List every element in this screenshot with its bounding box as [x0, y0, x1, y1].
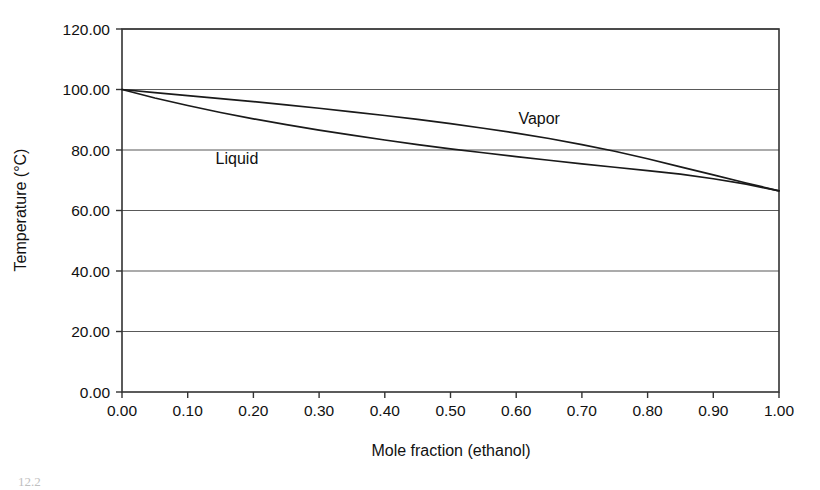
y-tick-label: 20.00: [71, 323, 110, 340]
vle-phase-diagram-figure: 0.000.100.200.300.400.500.600.700.800.90…: [0, 0, 820, 490]
page-caption-strip: 12.2: [0, 476, 820, 490]
x-axis-tick-labels: 0.000.100.200.300.400.500.600.700.800.90…: [107, 402, 795, 419]
x-tick-label: 0.90: [698, 402, 729, 419]
y-tick-label: 40.00: [71, 263, 110, 280]
x-tick-label: 0.10: [173, 402, 204, 419]
curve-annotations: VaporLiquid: [216, 110, 561, 166]
horizontal-gridlines: [122, 29, 779, 332]
y-tick-label: 80.00: [71, 142, 110, 159]
x-tick-label: 0.00: [107, 402, 138, 419]
data-series-curves: [122, 90, 779, 191]
y-axis-tick-labels: 0.0020.0040.0060.0080.00100.00120.00: [63, 21, 111, 401]
y-axis-title: Temperature (°C): [12, 149, 29, 272]
x-tick-label: 0.50: [435, 402, 466, 419]
y-tick-label: 100.00: [63, 81, 111, 98]
x-tick-label: 1.00: [764, 402, 795, 419]
x-axis-ticks: [122, 392, 779, 398]
y-tick-label: 60.00: [71, 202, 110, 219]
series-curve-vapor: [122, 90, 779, 191]
y-axis-ticks: [116, 29, 122, 392]
caption-text: 12.2: [18, 476, 41, 490]
x-axis-title: Mole fraction (ethanol): [371, 442, 530, 459]
x-tick-label: 0.70: [567, 402, 598, 419]
annotation-liquid: Liquid: [216, 150, 259, 167]
series-curve-liquid: [122, 90, 779, 191]
x-tick-label: 0.30: [304, 402, 335, 419]
annotation-vapor: Vapor: [518, 110, 560, 127]
y-tick-label: 120.00: [63, 21, 111, 38]
x-tick-label: 0.80: [633, 402, 664, 419]
x-tick-label: 0.20: [238, 402, 269, 419]
x-tick-label: 0.40: [370, 402, 401, 419]
y-tick-label: 0.00: [80, 384, 111, 401]
chart-canvas: 0.000.100.200.300.400.500.600.700.800.90…: [0, 0, 820, 490]
x-tick-label: 0.60: [501, 402, 532, 419]
